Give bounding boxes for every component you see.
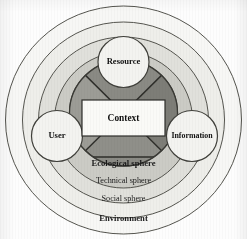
- diagram-canvas: Resource User Information Context Ecolog…: [0, 0, 247, 239]
- node-user[interactable]: User: [32, 111, 83, 162]
- context-box[interactable]: Context: [82, 100, 165, 136]
- ring-label-environment: Environment: [99, 213, 148, 223]
- ring-label-ecological: Ecological sphere: [91, 158, 155, 168]
- node-resource[interactable]: Resource: [98, 37, 149, 88]
- node-user-label: User: [48, 130, 65, 140]
- node-information-label: Information: [171, 131, 213, 140]
- node-resource-label: Resource: [107, 56, 141, 66]
- context-box-label: Context: [108, 113, 141, 123]
- figure-container: Resource User Information Context Ecolog…: [0, 0, 247, 239]
- ring-label-technical: Technical sphere: [96, 176, 151, 185]
- ring-label-social: Social sphere: [102, 194, 146, 203]
- node-information[interactable]: Information: [167, 111, 218, 162]
